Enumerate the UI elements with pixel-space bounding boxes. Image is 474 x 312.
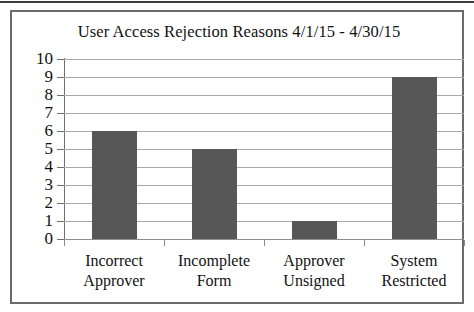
x-axis-category-label-line: System xyxy=(364,251,464,271)
x-axis-category-label: IncorrectApprover xyxy=(64,251,164,290)
y-axis-tick xyxy=(57,203,64,204)
y-axis-tick-label: 10 xyxy=(12,50,53,67)
x-axis-category-label-line: Incorrect xyxy=(64,251,164,271)
x-axis-category-label-line: Approver xyxy=(64,271,164,291)
x-axis-category-label-line: Restricted xyxy=(364,271,464,291)
y-axis-tick-label: 9 xyxy=(12,68,53,85)
x-axis-category-label-line: Approver xyxy=(264,251,364,271)
y-axis-tick-label: 4 xyxy=(12,158,53,175)
x-axis-category-labels: IncorrectApproverIncompleteFormApproverU… xyxy=(64,251,464,290)
y-axis-tick xyxy=(57,185,64,186)
y-axis-tick-label: 7 xyxy=(12,104,53,121)
top-divider-rule xyxy=(0,1,474,3)
bar xyxy=(192,149,237,239)
y-axis-tick xyxy=(57,221,64,222)
bar xyxy=(392,77,437,239)
x-axis-tick xyxy=(264,240,265,246)
x-axis-category-label: IncompleteForm xyxy=(164,251,264,290)
y-axis-tick xyxy=(57,59,64,60)
y-axis-tick xyxy=(57,167,64,168)
x-axis-category-label: ApproverUnsigned xyxy=(264,251,364,290)
x-axis-tick xyxy=(164,240,165,246)
y-axis-tick xyxy=(57,77,64,78)
y-axis-tick-label: 2 xyxy=(12,194,53,211)
y-axis-tick-label: 8 xyxy=(12,86,53,103)
chart-frame: User Access Rejection Reasons 4/1/15 - 4… xyxy=(10,10,464,304)
x-axis-category-label-line: Form xyxy=(164,271,264,291)
x-axis-tick xyxy=(364,240,365,246)
y-axis-tick-label: 3 xyxy=(12,176,53,193)
y-axis-tick-label: 0 xyxy=(12,230,53,247)
y-axis-tick xyxy=(57,149,64,150)
x-axis-category-label-line: Incomplete xyxy=(164,251,264,271)
y-axis-tick xyxy=(57,95,64,96)
gridline xyxy=(64,59,464,60)
chart-title: User Access Rejection Reasons 4/1/15 - 4… xyxy=(12,22,466,42)
y-axis-tick xyxy=(57,239,64,240)
x-axis-tick xyxy=(64,240,65,246)
y-axis-tick xyxy=(57,131,64,132)
x-axis-tick xyxy=(464,240,465,246)
x-axis-category-label-line: Unsigned xyxy=(264,271,364,291)
bar xyxy=(92,131,137,239)
y-axis-tick-label: 5 xyxy=(12,140,53,157)
y-axis-tick-label: 1 xyxy=(12,212,53,229)
y-axis-tick-label: 6 xyxy=(12,122,53,139)
bar xyxy=(292,221,337,239)
x-axis-category-label: SystemRestricted xyxy=(364,251,464,290)
y-axis-tick xyxy=(57,113,64,114)
plot-area xyxy=(64,59,464,239)
